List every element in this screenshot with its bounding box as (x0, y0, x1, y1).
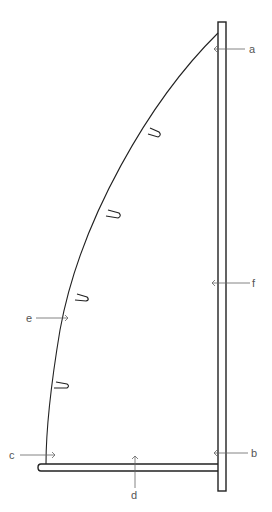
battens (54, 128, 160, 388)
sail-diagram: a f b c d e (0, 0, 272, 512)
label-a: a (249, 43, 256, 55)
label-b: b (251, 447, 257, 459)
callout-a: a (214, 43, 256, 55)
label-d: d (131, 489, 137, 501)
boom (38, 464, 218, 471)
batten-3 (75, 294, 88, 301)
batten-4 (54, 382, 69, 388)
label-e: e (26, 312, 32, 324)
label-f: f (252, 277, 256, 289)
mast (218, 22, 226, 491)
sail-leech (46, 33, 218, 464)
callout-d: d (131, 456, 138, 501)
batten-1 (148, 128, 160, 137)
callout-c: c (9, 449, 55, 461)
batten-2 (106, 210, 120, 218)
callout-b: b (214, 447, 257, 459)
label-c: c (9, 449, 15, 461)
